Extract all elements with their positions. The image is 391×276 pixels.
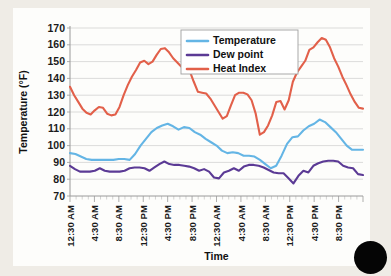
x-axis-ticks	[70, 196, 363, 202]
y-tick-label: 100	[47, 139, 65, 151]
x-tick-label: 12:30 PM	[138, 205, 149, 247]
x-tick-label: 8:30 PM	[187, 205, 198, 241]
series-line-temperature	[70, 120, 363, 169]
y-axis-tick-labels: 708090100110120130140150160170	[47, 22, 65, 202]
black-dot-overlay	[354, 241, 387, 274]
weather-line-chart: 708090100110120130140150160170 12:30 AM4…	[13, 8, 370, 266]
y-axis-title: Temperature (°F)	[17, 70, 29, 153]
chart-panel: 708090100110120130140150160170 12:30 AM4…	[13, 8, 370, 266]
y-tick-label: 130	[47, 89, 65, 101]
legend-label: Temperature	[213, 34, 276, 46]
x-tick-label: 4:30 AM	[89, 205, 100, 241]
y-tick-label: 80	[53, 173, 65, 185]
y-tick-label: 150	[47, 55, 65, 67]
x-tick-label: 12:30 PM	[284, 205, 295, 247]
x-axis-tick-labels: 12:30 AM4:30 AM8:30 AM12:30 PM4:30 PM8:3…	[65, 205, 345, 247]
x-tick-label: 12:30 AM	[65, 205, 76, 247]
x-tick-label: 4:30 PM	[309, 205, 320, 241]
x-tick-label: 12:30 AM	[211, 205, 222, 247]
x-tick-label: 4:30 PM	[162, 205, 173, 241]
y-tick-label: 160	[47, 38, 65, 50]
x-tick-label: 8:30 AM	[113, 205, 124, 241]
x-tick-label: 8:30 PM	[333, 205, 344, 241]
y-tick-label: 140	[47, 72, 65, 84]
legend-label: Dew point	[213, 48, 264, 60]
y-tick-label: 70	[53, 190, 65, 202]
x-axis-title: Time	[204, 250, 228, 262]
y-tick-label: 110	[48, 122, 65, 134]
y-tick-label: 120	[47, 106, 65, 118]
chart-legend: TemperatureDew pointHeat Index	[181, 30, 298, 74]
y-tick-label: 170	[47, 22, 65, 34]
legend-items: TemperatureDew pointHeat Index	[187, 34, 276, 74]
y-tick-label: 90	[53, 156, 65, 168]
x-tick-label: 8:30 AM	[260, 205, 271, 241]
legend-label: Heat Index	[213, 62, 266, 74]
slide-background: 708090100110120130140150160170 12:30 AM4…	[0, 0, 391, 276]
x-tick-label: 4:30 AM	[236, 205, 247, 241]
series-line-dew-point	[70, 161, 363, 184]
